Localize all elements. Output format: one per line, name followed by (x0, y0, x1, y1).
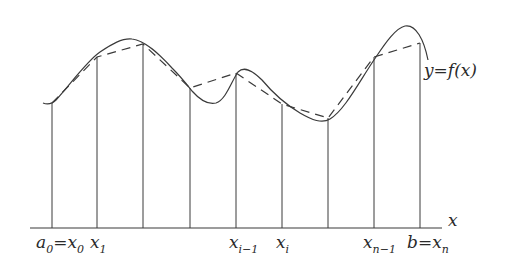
tick-label-xn-1: xn−1 (363, 234, 396, 251)
tick-label-b-xn: b=xn (407, 234, 449, 251)
tick-label-xi-1: xi−1 (229, 234, 258, 251)
partition-lines (52, 43, 420, 228)
x-axis-label: x (448, 212, 458, 229)
trapezoid-rule-diagram: x y=f(x) a0=x0 x1 xi−1 xi xn−1 b=xn (0, 0, 507, 271)
curve-label: y=f(x) (424, 62, 477, 79)
tick-label-x1: x1 (90, 234, 107, 251)
tick-label-xi: xi (276, 234, 289, 251)
diagram-canvas (0, 0, 507, 271)
tick-label-a0-x0: a0=x0 (36, 234, 84, 251)
